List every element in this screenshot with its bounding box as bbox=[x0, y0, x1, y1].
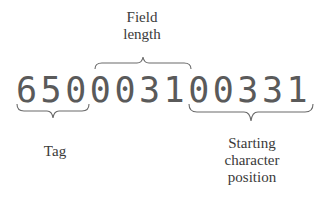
starting-position-label: Starting character position bbox=[207, 135, 297, 186]
digit: 1 bbox=[162, 70, 187, 110]
tag-label: Tag bbox=[25, 143, 85, 160]
digit: 3 bbox=[137, 70, 162, 110]
digit: 0 bbox=[112, 70, 137, 110]
starting-position-brace bbox=[188, 103, 316, 123]
field-length-brace bbox=[94, 56, 194, 70]
tag-brace bbox=[16, 103, 92, 119]
field-length-label: Field length bbox=[102, 9, 182, 43]
